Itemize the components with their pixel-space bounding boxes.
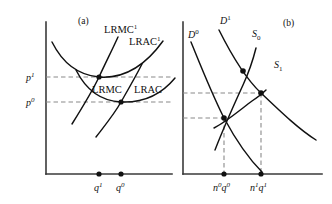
svg-text:D0: D0 <box>187 28 199 40</box>
lrmc1-label-base: LRMC <box>104 24 134 35</box>
d0-label: D0 <box>187 28 199 40</box>
equilibrium-dot-shortrun <box>240 68 246 74</box>
bq0-label-sup: 0 <box>227 181 231 189</box>
panel-b-axes <box>183 22 322 174</box>
s1-supply-curve <box>214 90 266 128</box>
svg-text:D1: D1 <box>219 14 231 26</box>
d0-label-sup: 0 <box>195 28 199 36</box>
d1-label: D1 <box>219 14 231 26</box>
panel-b-label: (b) <box>283 18 294 29</box>
n0q0-axis-label: n0q0 <box>213 181 231 193</box>
lrmc1-label: LRMC1 <box>104 23 138 35</box>
d1-demand-curve <box>219 30 316 140</box>
equilibrium-dot-initial <box>221 115 227 121</box>
lrac1-label-base: LRAC <box>129 36 157 47</box>
q0-label-sup: 0 <box>121 181 125 189</box>
lrac1-label-sup: 1 <box>157 35 161 43</box>
svg-text:q1: q1 <box>94 181 103 193</box>
s1-label: S1 <box>274 59 283 73</box>
svg-text:p0: p0 <box>25 96 35 108</box>
d1-label-sup: 1 <box>227 14 231 22</box>
svg-text:S0: S0 <box>252 28 261 42</box>
axis-dot-n1q1 <box>258 171 263 176</box>
n1q1-axis-label: n1q1 <box>250 181 267 193</box>
p0-axis-label: p0 <box>25 96 35 108</box>
d0-demand-curve <box>191 42 262 172</box>
svg-text:LRMC1: LRMC1 <box>104 23 138 35</box>
lrmc-label: LRMC <box>92 84 122 95</box>
q1-label-sup: 1 <box>99 181 103 189</box>
lrac1-label: LRAC1 <box>129 35 161 47</box>
lrac-label: LRAC <box>134 84 162 95</box>
svg-text:S1: S1 <box>274 59 283 73</box>
economics-figure: (a) LRMC1 LRAC1 LRMC LRAC p1 p0 q1 <box>0 0 332 204</box>
svg-text:n0q0: n0q0 <box>213 181 231 193</box>
panel-a-label: (a) <box>78 16 89 27</box>
q1-axis-label: q1 <box>94 181 103 193</box>
lrmc1-label-sup: 1 <box>134 23 138 31</box>
axis-dot-q0 <box>118 171 123 176</box>
s0-supply-curve <box>215 48 256 150</box>
svg-text:q0: q0 <box>116 181 125 193</box>
bq1-label-sup: 1 <box>264 181 268 189</box>
s0-label-sub: 0 <box>257 34 261 42</box>
axis-dot-n0q0 <box>221 171 226 176</box>
q0-axis-label: q0 <box>116 181 125 193</box>
p1-label-sup: 1 <box>31 71 35 79</box>
p0-label-sup: 0 <box>31 96 35 104</box>
axis-dot-q1 <box>96 171 101 176</box>
svg-text:LRAC1: LRAC1 <box>129 35 161 47</box>
panel-b-curves <box>191 30 316 172</box>
equilibrium-dot-p0q0 <box>118 99 123 104</box>
equilibrium-dot-p1q1 <box>96 74 101 79</box>
equilibrium-dot-new <box>258 90 264 96</box>
s1-label-sub: 1 <box>279 65 283 73</box>
figure-canvas: (a) LRMC1 LRAC1 LRMC LRAC p1 p0 q1 <box>0 0 332 204</box>
s0-label: S0 <box>252 28 261 42</box>
svg-text:n1q1: n1q1 <box>250 181 267 193</box>
lrmc1-curve <box>72 37 118 124</box>
svg-text:p1: p1 <box>25 71 35 83</box>
p1-axis-label: p1 <box>25 71 35 83</box>
